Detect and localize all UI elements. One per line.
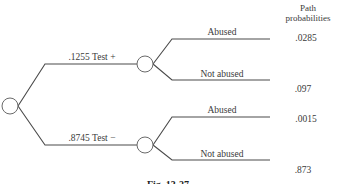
- header-probabilities: probabilities: [286, 13, 331, 23]
- label-upper-not-abused: Not abused: [200, 69, 243, 79]
- probability-tree-diagram: .1255 Test + .8745 Test − Abused Not abu…: [0, 0, 337, 184]
- label-test-negative: .8745 Test −: [68, 133, 115, 143]
- root-chance-node: [2, 98, 18, 114]
- label-lower-not-abused: Not abused: [200, 149, 243, 159]
- chance-node-test-negative: [137, 137, 153, 153]
- figure-caption: Fig. 13-27: [147, 179, 189, 184]
- chance-node-test-positive: [137, 56, 153, 72]
- label-lower-abused: Abused: [207, 105, 236, 115]
- label-upper-abused: Abused: [207, 27, 236, 37]
- branch-test-positive: [18, 64, 137, 106]
- path-probability-2: .097: [295, 84, 312, 94]
- path-probability-3: .0015: [295, 114, 317, 124]
- path-probability-1: .0285: [295, 33, 317, 43]
- branch-lower-abused: [153, 117, 270, 145]
- path-probability-4: .873: [295, 165, 312, 175]
- branch-upper-abused: [153, 39, 270, 64]
- header-path: Path: [300, 3, 317, 13]
- label-test-positive: .1255 Test +: [68, 52, 115, 62]
